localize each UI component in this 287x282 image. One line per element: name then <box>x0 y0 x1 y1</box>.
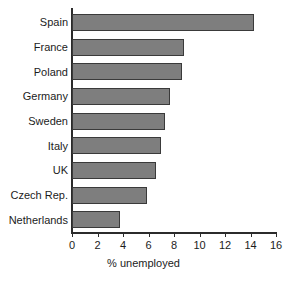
x-tick-label: 8 <box>171 239 177 251</box>
category-label: UK <box>2 164 68 176</box>
bar-row <box>72 14 276 31</box>
x-tick-mark <box>225 232 226 237</box>
bar-row <box>72 211 276 228</box>
bar-row <box>72 187 276 204</box>
bar <box>72 88 170 105</box>
category-label: Sweden <box>2 115 68 127</box>
category-label: Netherlands <box>2 214 68 226</box>
x-tick-label: 14 <box>244 239 256 251</box>
bar <box>72 162 156 179</box>
bar <box>72 187 147 204</box>
x-tick-mark <box>200 232 201 237</box>
x-tick-mark <box>276 232 277 237</box>
bar-row <box>72 63 276 80</box>
x-tick-mark <box>174 232 175 237</box>
bar-row <box>72 162 276 179</box>
x-tick-label: 10 <box>193 239 205 251</box>
x-tick-mark <box>149 232 150 237</box>
category-label: Spain <box>2 16 68 28</box>
category-axis-labels: SpainFrancePolandGermanySwedenItalyUKCze… <box>0 10 68 232</box>
bar <box>72 14 254 31</box>
x-tick-mark <box>98 232 99 237</box>
x-tick-label: 4 <box>120 239 126 251</box>
bar <box>72 39 184 56</box>
x-tick-label: 16 <box>270 239 282 251</box>
x-tick-mark <box>251 232 252 237</box>
bar-row <box>72 88 276 105</box>
category-label: Germany <box>2 90 68 102</box>
bar-row <box>72 39 276 56</box>
bar-chart: SpainFrancePolandGermanySwedenItalyUKCze… <box>0 0 287 282</box>
x-tick-mark <box>123 232 124 237</box>
x-tick-label: 2 <box>94 239 100 251</box>
bar-row <box>72 137 276 154</box>
bar <box>72 137 161 154</box>
x-tick-label: 12 <box>219 239 231 251</box>
category-label: Italy <box>2 140 68 152</box>
bar <box>72 113 165 130</box>
category-label: Poland <box>2 66 68 78</box>
x-axis-title: % unemployed <box>0 257 287 269</box>
x-tick-label: 0 <box>69 239 75 251</box>
plot-area <box>72 10 276 232</box>
bar <box>72 63 182 80</box>
x-tick-mark <box>72 232 73 237</box>
x-tick-label: 6 <box>145 239 151 251</box>
category-label: France <box>2 41 68 53</box>
bar-row <box>72 113 276 130</box>
bar <box>72 211 120 228</box>
category-label: Czech Rep. <box>2 189 68 201</box>
